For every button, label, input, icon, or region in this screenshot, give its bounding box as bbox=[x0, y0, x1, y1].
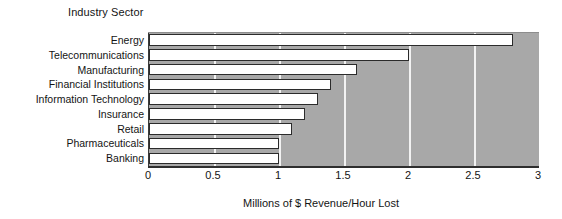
x-axis-line bbox=[148, 166, 539, 168]
x-tick-label: 0.5 bbox=[205, 169, 220, 181]
x-axis-title: Millions of $ Revenue/Hour Lost bbox=[0, 197, 562, 209]
bar bbox=[149, 123, 292, 135]
category-label: Pharmaceuticals bbox=[66, 136, 144, 151]
category-label: Information Technology bbox=[36, 92, 144, 107]
x-tick-label: 2 bbox=[405, 169, 411, 181]
category-label: Telecommunications bbox=[49, 48, 144, 63]
x-tick-label: 1.5 bbox=[335, 169, 350, 181]
bar bbox=[149, 108, 305, 120]
bar bbox=[149, 93, 318, 105]
category-label: Manufacturing bbox=[77, 63, 144, 78]
category-label: Energy bbox=[111, 33, 144, 48]
bar-row bbox=[149, 122, 539, 137]
bar bbox=[149, 34, 513, 46]
plot-area bbox=[148, 33, 539, 166]
x-tick-label: 2.5 bbox=[465, 169, 480, 181]
bar bbox=[149, 49, 409, 61]
bar-chart-figure: Industry Sector EnergyTelecommunications… bbox=[0, 0, 562, 219]
category-label: Retail bbox=[117, 122, 144, 137]
bar-row bbox=[149, 48, 539, 63]
bar-row bbox=[149, 92, 539, 107]
bar bbox=[149, 138, 279, 150]
x-tick-label: 0 bbox=[145, 169, 151, 181]
bar-row bbox=[149, 33, 539, 48]
x-tick-label: 1 bbox=[275, 169, 281, 181]
bar bbox=[149, 79, 331, 91]
bar-row bbox=[149, 63, 539, 78]
bar-row bbox=[149, 77, 539, 92]
category-label: Banking bbox=[106, 151, 144, 166]
bar-row bbox=[149, 136, 539, 151]
plot-frame-top-edge bbox=[148, 32, 539, 33]
bar bbox=[149, 64, 357, 76]
x-tick-label: 3 bbox=[535, 169, 541, 181]
y-axis-title: Industry Sector bbox=[68, 6, 143, 18]
bar-row bbox=[149, 151, 539, 166]
category-label: Insurance bbox=[98, 107, 144, 122]
bar-row bbox=[149, 107, 539, 122]
bar bbox=[149, 153, 279, 165]
x-axis-title-text: Millions of $ Revenue/Hour Lost bbox=[243, 197, 399, 209]
category-label: Financial Institutions bbox=[49, 77, 144, 92]
